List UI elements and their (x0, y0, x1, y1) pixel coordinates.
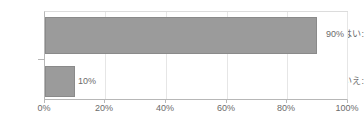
x-axis-tick-label: 40% (145, 104, 185, 113)
bar-value-label: 90% (326, 30, 344, 39)
plot-area (44, 11, 348, 100)
bar-segment (45, 66, 75, 97)
x-axis-tick-label: 60% (206, 104, 246, 113)
bar-value-label: 10% (78, 77, 96, 86)
bar-segment (45, 17, 317, 54)
x-axis-tick-label: 80% (266, 104, 306, 113)
x-axis-tick-label: 0% (24, 104, 64, 113)
x-axis-tick-label: 100% (327, 104, 364, 113)
horizontal-bar-chart: はい: いいえ: 90% 10% 0% 20% 40% 60% 80% 100% (0, 0, 364, 127)
gridline-100 (347, 12, 348, 99)
x-axis-tick-label: 20% (84, 104, 124, 113)
